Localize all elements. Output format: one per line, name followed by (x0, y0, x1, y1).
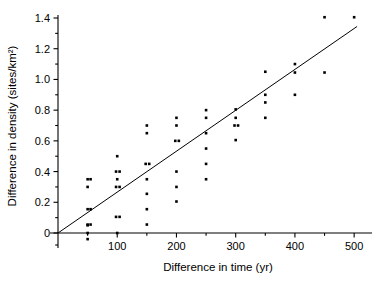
data-point (174, 140, 177, 143)
x-tick-label-2: 300 (227, 240, 245, 252)
data-point (146, 193, 149, 196)
regression-fit-line (58, 26, 357, 233)
data-point (146, 124, 149, 127)
data-point (205, 147, 208, 150)
data-point (115, 170, 118, 173)
regression-line (58, 26, 357, 233)
data-point (353, 16, 356, 19)
data-point (144, 163, 147, 166)
y-tick-label-4: 0.8 (35, 104, 50, 116)
data-point (116, 232, 119, 235)
data-point (116, 178, 119, 181)
data-point (294, 93, 297, 96)
x-tick-label-1: 200 (167, 240, 185, 252)
y-tick-label-0: 0 (44, 227, 50, 239)
data-point (264, 70, 267, 73)
data-point (175, 124, 178, 127)
data-point (205, 132, 208, 135)
data-point (237, 124, 240, 127)
tick-labels-group: 00.20.40.60.81.01.21.4100200300400500 (35, 12, 364, 252)
y-tick-label-3: 0.6 (35, 135, 50, 147)
x-axis-title: Difference in time (yr) (163, 261, 273, 273)
data-point (264, 93, 267, 96)
x-tick-label-3: 400 (286, 240, 304, 252)
data-point (205, 117, 208, 120)
y-axis-title: Difference in density (sites/km²) (6, 45, 18, 206)
x-tick-label-0: 100 (108, 240, 126, 252)
data-point (86, 208, 89, 211)
data-point (264, 101, 267, 104)
y-tick-label-5: 1.0 (35, 73, 50, 85)
scatter-plot-figure: 00.20.40.60.81.01.21.4100200300400500 Di… (0, 0, 382, 282)
data-point (86, 223, 89, 226)
ticks-group (54, 18, 355, 245)
y-tick-label-1: 0.2 (35, 196, 50, 208)
y-tick-label-6: 1.2 (35, 43, 50, 55)
data-point (175, 186, 178, 189)
data-point (86, 186, 89, 189)
data-point (118, 186, 121, 189)
data-point (89, 178, 92, 181)
data-point (205, 163, 208, 166)
data-point (146, 208, 149, 211)
data-point (86, 238, 89, 241)
data-point (118, 170, 121, 173)
data-point (233, 124, 236, 127)
data-point (86, 178, 89, 181)
data-point (205, 178, 208, 181)
data-point (115, 186, 118, 189)
data-point (323, 71, 326, 74)
data-point (264, 117, 267, 120)
data-point (115, 216, 118, 219)
data-point (89, 223, 92, 226)
data-point (86, 232, 89, 235)
data-point (118, 216, 121, 219)
data-point (89, 208, 92, 211)
data-point (178, 140, 181, 143)
data-point (205, 109, 208, 112)
x-tick-label-4: 500 (345, 240, 363, 252)
data-point (175, 117, 178, 120)
data-point (146, 223, 149, 226)
data-point (234, 117, 237, 120)
data-point (146, 132, 149, 135)
data-point (234, 108, 237, 111)
data-point (175, 200, 178, 203)
data-point (175, 170, 178, 173)
data-point (148, 163, 151, 166)
data-points-group (86, 16, 355, 241)
y-tick-label-2: 0.4 (35, 166, 50, 178)
data-point (323, 16, 326, 19)
data-point (234, 139, 237, 142)
data-point (294, 63, 297, 66)
data-point (146, 178, 149, 181)
data-point (116, 155, 119, 158)
data-point (294, 71, 297, 74)
plot-canvas: 00.20.40.60.81.01.21.4100200300400500 Di… (0, 0, 382, 282)
y-tick-label-7: 1.4 (35, 12, 50, 24)
